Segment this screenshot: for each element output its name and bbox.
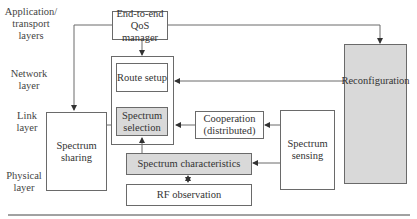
qos-manager-box: End-to-end QoS manager — [112, 11, 168, 40]
rf-observation-box: RF observation — [126, 184, 252, 206]
spectrum-sharing-box: Spectrum sharing — [46, 112, 107, 191]
spectrum-selection-box: Spectrum selection — [116, 107, 168, 136]
route-setup-box: Route setup — [116, 63, 168, 92]
layer-label-physical: Physical layer — [2, 170, 46, 194]
layer-label-link: Link layer — [10, 110, 44, 134]
layer-label-application: Application/ transport layers — [2, 6, 60, 42]
cooperation-box: Cooperation (distributed) — [195, 111, 264, 139]
layer-label-network: Network layer — [6, 68, 52, 92]
spectrum-characteristics-box: Spectrum characteristics — [126, 153, 252, 175]
reconfiguration-box: Reconfiguration — [344, 44, 407, 184]
spectrum-sensing-box: Spectrum sensing — [280, 110, 335, 190]
